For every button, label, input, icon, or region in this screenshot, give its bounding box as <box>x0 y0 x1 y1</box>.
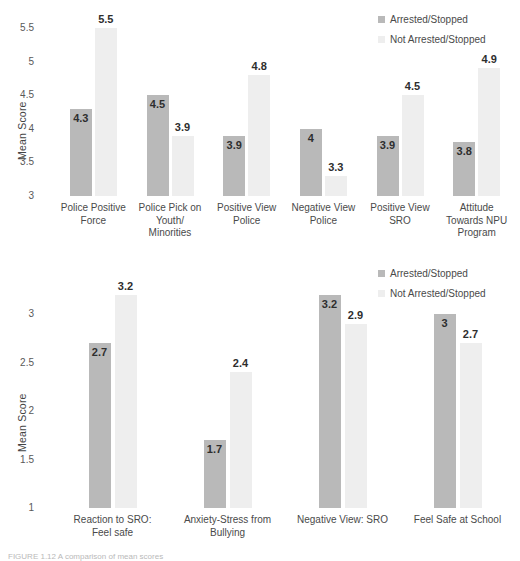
bar-bottom-2-not-arrested-stopped: 2.9 <box>345 324 367 508</box>
y-tick-label: 4.5 <box>20 90 34 100</box>
bar-bottom-3-not-arrested-stopped: 2.7 <box>460 343 482 508</box>
x-category-label: Negative View: SRO <box>278 514 407 527</box>
legend-item-not_arrested[interactable]: Not Arrested/Stopped <box>378 34 486 45</box>
y-tick-label: 2 <box>28 406 34 416</box>
legend-bottom: Arrested/StoppedNot Arrested/Stopped <box>378 268 486 308</box>
bar-top-4-arrested-stopped: 3.9 <box>377 136 399 196</box>
y-tick-label: 3 <box>28 191 34 201</box>
bar-value-label: 4.5 <box>405 80 420 92</box>
legend-swatch-icon <box>378 270 385 277</box>
legend-swatch-icon <box>378 16 385 23</box>
x-category-label: Police Pick on Youth/ Minorities <box>128 202 213 240</box>
plot-area: 2.73.2Reaction to SRO: Feel safe1.72.4An… <box>55 290 515 508</box>
bar-value-label: 3.9 <box>380 139 395 151</box>
legend-item-arrested[interactable]: Arrested/Stopped <box>378 14 486 25</box>
y-tick-label: 5.5 <box>20 23 34 33</box>
bar-top-1-not-arrested-stopped: 3.9 <box>172 136 194 196</box>
y-tick-label: 5 <box>28 57 34 67</box>
x-category-label: Anxiety-Stress from Bullying <box>163 514 292 539</box>
x-category-label: Police Positive Force <box>51 202 136 227</box>
y-axis-ticks: 33.544.555.5 <box>0 0 34 216</box>
x-category-label: Positive View Police <box>204 202 289 227</box>
bar-value-label: 4.8 <box>252 60 267 72</box>
bar-chart-bottom: Mean Score 11.522.53 2.73.2Reaction to S… <box>0 262 520 542</box>
y-tick-label: 3 <box>28 309 34 319</box>
bar-value-label: 3.9 <box>227 139 242 151</box>
figure-caption: FIGURE 1.12 A comparison of mean scores <box>8 552 508 561</box>
bar-value-label: 3 <box>441 317 447 329</box>
bar-value-label: 4.3 <box>73 112 88 124</box>
bar-chart-top: Mean Score 33.544.555.5 4.35.5Police Pos… <box>0 0 520 260</box>
y-tick-label: 2.5 <box>20 358 34 368</box>
bar-bottom-0-arrested-stopped: 2.7 <box>89 343 111 508</box>
legend-swatch-icon <box>378 36 385 43</box>
bar-top-0-not-arrested-stopped: 5.5 <box>95 28 117 196</box>
bar-value-label: 3.2 <box>322 298 337 310</box>
bar-value-label: 3.2 <box>118 280 133 292</box>
y-axis-ticks: 11.522.53 <box>0 262 34 528</box>
y-tick-label: 3.5 <box>20 157 34 167</box>
bar-top-5-arrested-stopped: 3.8 <box>453 142 475 196</box>
bar-value-label: 4.5 <box>150 98 165 110</box>
legend-label: Arrested/Stopped <box>390 268 468 279</box>
bar-top-2-arrested-stopped: 3.9 <box>223 136 245 196</box>
y-tick-label: 1.5 <box>20 455 34 465</box>
bar-value-label: 3.8 <box>457 145 472 157</box>
bar-value-label: 5.5 <box>98 13 113 25</box>
bar-top-0-arrested-stopped: 4.3 <box>70 109 92 196</box>
bar-top-2-not-arrested-stopped: 4.8 <box>248 75 270 196</box>
legend-item-not_arrested[interactable]: Not Arrested/Stopped <box>378 288 486 299</box>
legend-label: Not Arrested/Stopped <box>390 34 486 45</box>
x-category-label: Feel Safe at School <box>393 514 520 527</box>
bar-value-label: 3.9 <box>175 121 190 133</box>
bar-value-label: 2.7 <box>463 328 478 340</box>
legend-label: Not Arrested/Stopped <box>390 288 486 299</box>
bar-top-1-arrested-stopped: 4.5 <box>147 95 169 196</box>
bar-top-3-not-arrested-stopped: 3.3 <box>325 176 347 196</box>
bar-value-label: 3.3 <box>328 161 343 173</box>
bar-top-4-not-arrested-stopped: 4.5 <box>402 95 424 196</box>
x-category-label: Positive View SRO <box>358 202 443 227</box>
bar-value-label: 4.9 <box>482 53 497 65</box>
x-category-label: Negative View Police <box>281 202 366 227</box>
legend-swatch-icon <box>378 290 385 297</box>
legend-label: Arrested/Stopped <box>390 14 468 25</box>
x-category-label: Attitude Towards NPU Program <box>434 202 519 240</box>
legend-item-arrested[interactable]: Arrested/Stopped <box>378 268 486 279</box>
bar-bottom-1-not-arrested-stopped: 2.4 <box>230 372 252 508</box>
bar-value-label: 2.4 <box>233 357 248 369</box>
bar-bottom-2-arrested-stopped: 3.2 <box>319 295 341 508</box>
bar-bottom-3-arrested-stopped: 3 <box>434 314 456 508</box>
x-category-label: Reaction to SRO: Feel safe <box>48 514 177 539</box>
bar-bottom-0-not-arrested-stopped: 3.2 <box>115 295 137 508</box>
bar-value-label: 1.7 <box>207 443 222 455</box>
bar-value-label: 4 <box>308 132 314 144</box>
legend-top: Arrested/StoppedNot Arrested/Stopped <box>378 14 486 54</box>
y-tick-label: 1 <box>28 503 34 513</box>
bar-value-label: 2.9 <box>348 309 363 321</box>
y-tick-label: 4 <box>28 124 34 134</box>
bar-top-5-not-arrested-stopped: 4.9 <box>478 68 500 196</box>
bar-bottom-1-arrested-stopped: 1.7 <box>204 440 226 508</box>
bar-top-3-arrested-stopped: 4 <box>300 129 322 196</box>
bar-value-label: 2.7 <box>92 346 107 358</box>
